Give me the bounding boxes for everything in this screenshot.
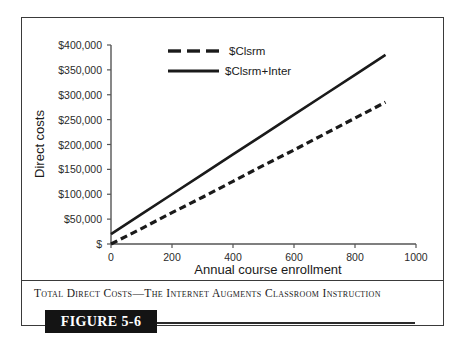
figure-caption-text: Total Direct Costs—The Internet Augments… xyxy=(34,287,443,299)
line-chart: $$50,000$100,000$150,000$200,000$250,000… xyxy=(22,18,445,280)
x-tick-label: 800 xyxy=(346,251,364,263)
y-axis-ticks: $$50,000$100,000$150,000$200,000$250,000… xyxy=(58,39,111,250)
y-tick-label: $50,000 xyxy=(64,213,102,225)
data-series-2 xyxy=(111,55,386,234)
figure-page: $$50,000$100,000$150,000$200,000$250,000… xyxy=(0,0,464,344)
y-tick-label: $250,000 xyxy=(58,114,102,126)
x-tick-label: 200 xyxy=(163,251,181,263)
y-tick-label: $350,000 xyxy=(58,64,102,76)
x-tick-label: 1000 xyxy=(404,251,428,263)
figure-number-label: FIGURE 5-6 xyxy=(61,314,142,330)
x-axis-ticks: 02004006008001000 xyxy=(108,244,428,263)
figure-number-badge: FIGURE 5-6 xyxy=(45,310,157,333)
y-tick-label: $400,000 xyxy=(58,39,102,51)
legend-label-clsrm: $Clsrm xyxy=(229,45,265,57)
chart-plot-region: $$50,000$100,000$150,000$200,000$250,000… xyxy=(22,18,445,280)
data-series-layer xyxy=(111,55,386,244)
y-tick-label: $ xyxy=(96,238,102,250)
y-tick-label: $200,000 xyxy=(58,139,102,151)
y-axis-title: Direct costs xyxy=(32,110,47,178)
y-tick-label: $100,000 xyxy=(58,188,102,200)
figure-frame: $$50,000$100,000$150,000$200,000$250,000… xyxy=(21,17,444,326)
y-tick-label: $150,000 xyxy=(58,163,102,175)
x-tick-label: 0 xyxy=(108,251,114,263)
data-series-1 xyxy=(111,102,386,244)
legend-label-clsrm-inter: $Clsrm+Inter xyxy=(225,65,291,77)
x-axis-title: Annual course enrollment xyxy=(194,262,342,277)
chart-legend: $Clsrm $Clsrm+Inter xyxy=(168,45,291,77)
y-tick-label: $300,000 xyxy=(58,89,102,101)
